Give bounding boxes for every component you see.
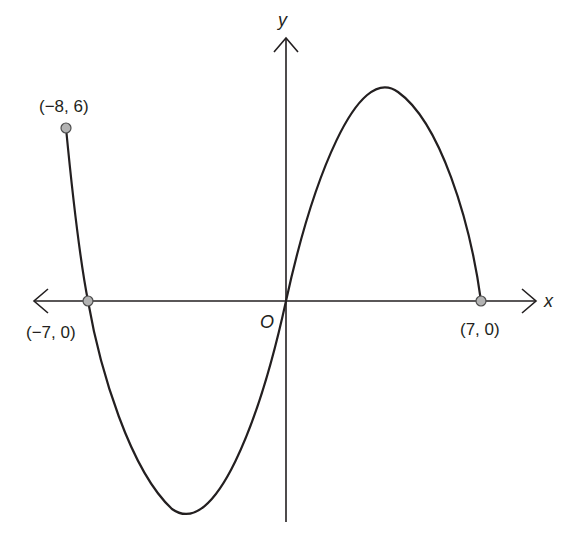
point-start: (−8, 6)	[39, 97, 89, 133]
y-axis-label: y	[276, 10, 288, 30]
function-graph: x y O (−8, 6) (−7, 0) (7, 0)	[0, 0, 572, 536]
x-axis-label: x	[543, 291, 554, 311]
point-start-label: (−8, 6)	[39, 97, 89, 116]
point-right-end-label: (7, 0)	[460, 320, 500, 339]
point-left-root-label: (−7, 0)	[26, 323, 76, 342]
origin-label: O	[260, 312, 274, 332]
point-right-end: (7, 0)	[460, 296, 500, 339]
